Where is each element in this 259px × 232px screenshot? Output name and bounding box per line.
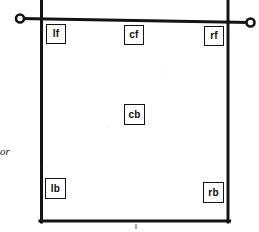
head-rail-left-ring-icon	[16, 15, 24, 23]
position-label-lb: lb	[51, 184, 60, 194]
position-box-lf: lf	[46, 24, 66, 44]
position-label-cb: cb	[128, 110, 140, 120]
position-box-cb: cb	[124, 104, 145, 125]
position-box-rf: rf	[204, 26, 224, 46]
position-box-cf: cf	[124, 25, 144, 45]
position-label-rf: rf	[210, 31, 218, 41]
head-rail-bar	[20, 19, 250, 23]
position-label-rb: rb	[208, 188, 218, 198]
head-rail-right-ring-icon	[247, 19, 255, 27]
side-note-text: or	[0, 145, 10, 157]
position-label-cf: cf	[129, 30, 138, 40]
bed-plan-figure: lf cf rf cb lb rb or	[0, 0, 259, 232]
position-label-lf: lf	[53, 29, 60, 39]
position-box-lb: lb	[45, 178, 66, 199]
position-box-rb: rb	[203, 182, 224, 203]
